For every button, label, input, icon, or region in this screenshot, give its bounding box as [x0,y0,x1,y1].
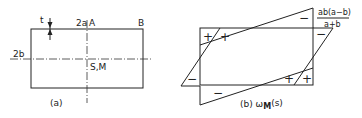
caption-b-prefix: (b) [240,99,256,109]
point-a-label: A [89,18,96,28]
figure-b: + + − − − − + + ab(a−b) a+b (b) ωM(s) [181,8,351,111]
sign-bottom-right-1: + [284,72,294,86]
center-label: S,M [90,62,106,72]
warping-top-edge [200,8,313,45]
height-label: 2b [13,49,25,59]
caption-b-subscript: M [263,102,271,111]
thickness-label: t [40,15,44,25]
sign-bottom: − [213,86,223,100]
sign-top-right: − [299,11,309,25]
sign-top-left-2: + [220,30,230,44]
sign-right-upper: − [316,27,326,41]
caption-b-suffix: (s) [271,98,283,108]
diagram-canvas: t 2a A B 2b S,M (a) + + − − − − + + ab(a… [0,0,362,118]
figure-a: t 2a A B 2b S,M (a) [10,15,152,108]
caption-b: (b) ωM(s) [240,98,283,111]
sign-top-left-1: + [203,30,213,44]
point-b-label: B [138,18,144,28]
sign-left-lower: − [187,72,197,86]
section-rectangle [200,28,313,85]
sign-bottom-right-2: + [302,72,312,86]
caption-b-symbol: ω [256,99,264,109]
caption-a: (a) [50,98,63,108]
formula-numerator: ab(a−b) [318,8,351,17]
width-label: 2a [76,18,87,28]
formula-denominator: a+b [324,20,341,29]
